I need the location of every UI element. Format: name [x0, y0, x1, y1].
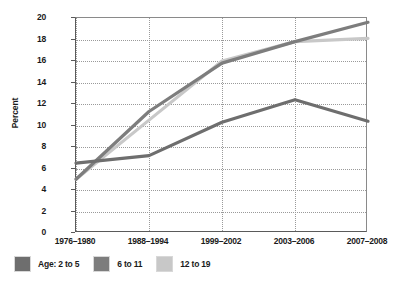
series-line-2-to-5: [76, 100, 368, 163]
legend-item-0[interactable]: Age: 2 to 5: [14, 256, 79, 272]
y-tick-label: 2: [16, 206, 46, 216]
y-tick-label: 12: [16, 98, 46, 108]
legend-swatch-icon: [14, 256, 31, 272]
series-line-6-to-11: [76, 22, 368, 179]
legend-label: 12 to 19: [180, 259, 210, 269]
y-tick-label: 6: [16, 163, 46, 173]
y-tick-mark: [71, 232, 75, 233]
y-tick-label: 14: [16, 77, 46, 87]
chart-container: Percent 20181614121086420 1976–19801988–…: [0, 0, 418, 284]
legend-label: Age: 2 to 5: [38, 259, 79, 269]
legend-swatch-icon: [156, 256, 173, 272]
plot-area: [75, 17, 367, 232]
x-tick-label: 2007–2008: [322, 236, 412, 246]
legend-item-1[interactable]: 6 to 11: [93, 256, 142, 272]
y-tick-label: 16: [16, 55, 46, 65]
series-lines: [76, 18, 368, 233]
y-tick-label: 10: [16, 120, 46, 130]
legend-label: 6 to 11: [117, 259, 142, 269]
y-tick-label: 4: [16, 184, 46, 194]
y-tick-label: 20: [16, 12, 46, 22]
y-tick-label: 8: [16, 141, 46, 151]
legend-item-2[interactable]: 12 to 19: [156, 256, 210, 272]
y-axis-title: Percent: [10, 78, 20, 148]
legend-swatch-icon: [93, 256, 110, 272]
y-tick-label: 18: [16, 34, 46, 44]
chart-legend: Age: 2 to 56 to 1112 to 19: [14, 256, 224, 272]
